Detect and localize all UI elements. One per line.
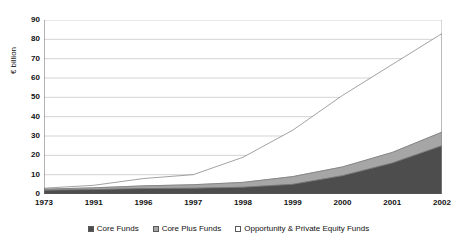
x-axis-tick-labels: 197319911996199719981999200020012002 xyxy=(44,198,442,212)
legend-item[interactable]: Opportunity & Private Equity Funds xyxy=(235,224,369,233)
area-chart: € billion 9080706050403020100 1973199119… xyxy=(0,0,457,249)
chart-plot-svg xyxy=(44,20,442,194)
y-axis-tick-label: 50 xyxy=(18,93,40,101)
legend-item[interactable]: Core Funds xyxy=(88,224,139,233)
legend-item[interactable]: Core Plus Funds xyxy=(153,224,222,233)
y-axis-tick-label: 20 xyxy=(18,151,40,159)
x-axis-tick-label: 1973 xyxy=(22,198,66,207)
legend-item-label: Core Funds xyxy=(97,224,139,233)
chart-legend: Core FundsCore Plus FundsOpportunity & P… xyxy=(0,224,457,233)
legend-item-label: Opportunity & Private Equity Funds xyxy=(244,224,369,233)
y-axis-tick-label: 60 xyxy=(18,74,40,82)
y-axis-tick-label: 70 xyxy=(18,55,40,63)
x-axis-tick-label: 1991 xyxy=(72,198,116,207)
x-axis-tick-label: 1998 xyxy=(221,198,265,207)
legend-swatch-icon xyxy=(153,226,159,232)
y-axis-tick-label: 0 xyxy=(18,190,40,198)
x-axis-tick-label: 1997 xyxy=(171,198,215,207)
x-axis-tick-label: 2002 xyxy=(420,198,457,207)
y-axis-tick-labels: 9080706050403020100 xyxy=(18,20,40,194)
y-axis-tick-label: 40 xyxy=(18,113,40,121)
y-axis-title: € billion xyxy=(9,26,18,96)
legend-item-label: Core Plus Funds xyxy=(162,224,222,233)
x-axis-tick-label: 2001 xyxy=(370,198,414,207)
y-axis-tick-label: 80 xyxy=(18,35,40,43)
x-axis-tick-label: 1996 xyxy=(122,198,166,207)
x-axis-tick-label: 1999 xyxy=(271,198,315,207)
y-axis-tick-label: 90 xyxy=(18,16,40,24)
legend-swatch-icon xyxy=(235,226,241,232)
plot-area xyxy=(44,20,442,194)
y-axis-tick-label: 10 xyxy=(18,171,40,179)
x-axis-tick-label: 2000 xyxy=(321,198,365,207)
legend-swatch-icon xyxy=(88,226,94,232)
y-axis-tick-label: 30 xyxy=(18,132,40,140)
